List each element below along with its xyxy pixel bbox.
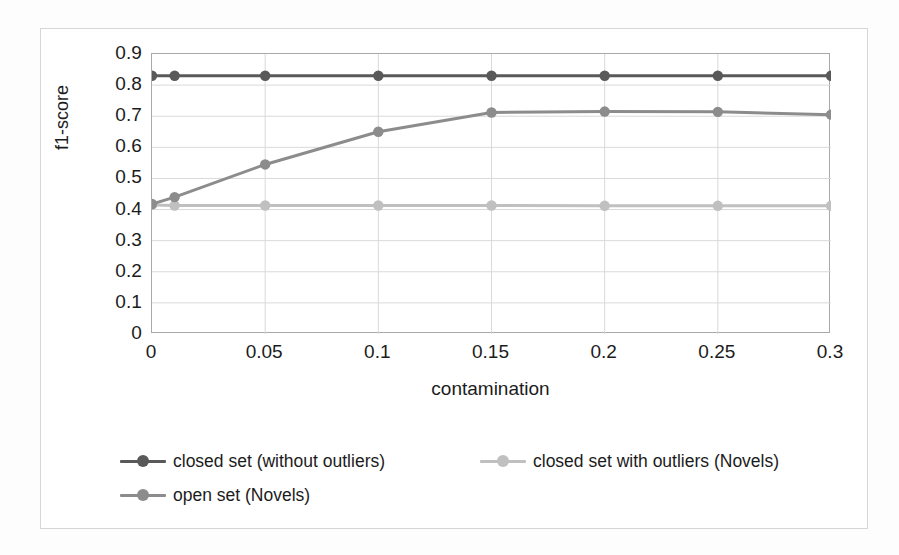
legend-label: closed set (without outliers) <box>173 451 385 472</box>
legend-label: closed set with outliers (Novels) <box>533 451 779 472</box>
legend-marker-icon <box>120 454 166 468</box>
series-point <box>373 127 383 137</box>
legend-marker-icon <box>480 454 526 468</box>
legend-marker-icon <box>120 488 166 502</box>
legend-item[interactable]: open set (Novels) <box>120 485 480 506</box>
legend-label: open set (Novels) <box>173 485 310 506</box>
series-point <box>599 201 609 211</box>
series-point <box>486 107 496 117</box>
legend-item[interactable]: closed set with outliers (Novels) <box>480 451 779 472</box>
series-point <box>713 71 723 81</box>
plot-svg <box>152 54 831 334</box>
x-tick-label: 0.2 <box>590 341 616 363</box>
chart-figure: f1-score 0.90.80.70.60.50.40.30.20.10 00… <box>0 0 899 555</box>
x-tick-label: 0.25 <box>698 341 735 363</box>
legend-row: closed set (without outliers)closed set … <box>120 444 820 478</box>
plot-area <box>151 53 830 333</box>
series-point <box>373 200 383 210</box>
x-tick-label: 0.05 <box>246 341 283 363</box>
series-point <box>826 109 831 119</box>
series-point <box>713 201 723 211</box>
series-point <box>486 200 496 210</box>
y-axis-tick-labels: 0.90.80.70.60.50.40.30.20.10 <box>78 53 142 333</box>
x-tick-label: 0.3 <box>817 341 843 363</box>
legend-row: open set (Novels) <box>120 478 820 512</box>
y-tick-label: 0.8 <box>115 73 142 95</box>
chart-legend: closed set (without outliers)closed set … <box>120 444 820 512</box>
series-point <box>713 107 723 117</box>
y-axis-title: f1-score <box>52 85 73 150</box>
series-point <box>169 192 179 202</box>
series-point <box>599 106 609 116</box>
y-tick-label: 0.5 <box>115 166 142 188</box>
series-point <box>826 71 831 81</box>
x-axis-tick-labels: 00.050.10.150.20.250.3 <box>151 341 830 371</box>
series-point <box>486 71 496 81</box>
series-point <box>260 71 270 81</box>
legend-item[interactable]: closed set (without outliers) <box>120 451 480 472</box>
x-tick-label: 0.15 <box>472 341 509 363</box>
y-tick-label: 0.2 <box>115 260 142 282</box>
y-tick-label: 0.4 <box>115 198 142 220</box>
series-point <box>599 71 609 81</box>
x-tick-label: 0 <box>146 341 157 363</box>
series-point <box>169 71 179 81</box>
y-tick-label: 0 <box>131 322 142 344</box>
y-tick-label: 0.1 <box>115 291 142 313</box>
series-point <box>260 159 270 169</box>
x-tick-label: 0.1 <box>364 341 390 363</box>
y-tick-label: 0.9 <box>115 42 142 64</box>
series-point <box>373 71 383 81</box>
y-tick-label: 0.6 <box>115 135 142 157</box>
y-tick-label: 0.7 <box>115 104 142 126</box>
x-axis-title: contamination <box>151 378 830 400</box>
series-point <box>152 71 157 81</box>
series-point <box>260 200 270 210</box>
y-tick-label: 0.3 <box>115 229 142 251</box>
